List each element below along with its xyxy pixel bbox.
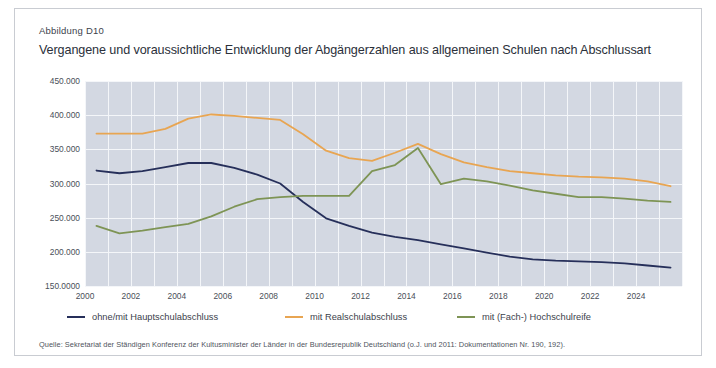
- x-axis-tick-label: 2008: [259, 291, 278, 301]
- legend-swatch-icon: [67, 316, 85, 318]
- series-lines: [85, 81, 682, 286]
- gridline-horizontal: [85, 286, 682, 287]
- x-axis-tick-label: 2022: [581, 291, 600, 301]
- y-axis-tick-label: 150.0000: [45, 281, 80, 291]
- figure-title: Vergangene und voraussichtliche Entwickl…: [39, 43, 651, 57]
- x-axis-tick-label: 2018: [489, 291, 508, 301]
- source-note: Quelle: Sekretariat der Ständigen Konfer…: [39, 340, 565, 349]
- legend-label: ohne/mit Hauptschulabschluss: [92, 312, 218, 322]
- x-axis-tick-label: 2012: [351, 291, 370, 301]
- y-axis-tick-label: 400.000: [50, 110, 80, 120]
- y-axis-tick-label: 300.000: [50, 179, 80, 189]
- chart-plot: 450.000400.000350.000300.000250.000200.0…: [85, 81, 682, 286]
- figure-label: Abbildung D10: [39, 25, 104, 36]
- x-axis-tick-label: 2006: [213, 291, 232, 301]
- x-axis-tick-label: 2002: [122, 291, 141, 301]
- legend-item[interactable]: ohne/mit Hauptschulabschluss: [67, 312, 218, 322]
- legend-item[interactable]: mit Realschulabschluss: [285, 312, 407, 322]
- x-axis-tick-label: 2004: [168, 291, 187, 301]
- series-line: [96, 163, 670, 268]
- x-axis-tick-label: 2014: [397, 291, 416, 301]
- series-line: [96, 148, 670, 233]
- gridline-vertical: [682, 81, 683, 286]
- legend-label: mit Realschulabschluss: [310, 312, 407, 322]
- y-axis-tick-label: 450.000: [50, 76, 80, 86]
- figure-panel: Abbildung D10 Vergangene und voraussicht…: [14, 8, 702, 356]
- x-axis-tick-label: 2016: [443, 291, 462, 301]
- series-line: [96, 114, 670, 186]
- y-axis-tick-label: 350.000: [50, 144, 80, 154]
- x-axis-tick-label: 2024: [627, 291, 646, 301]
- legend-item[interactable]: mit (Fach-) Hochschulreife: [457, 312, 591, 322]
- y-axis-tick-label: 250.000: [50, 213, 80, 223]
- x-axis-tick-label: 2000: [76, 291, 95, 301]
- x-axis-tick-label: 2020: [535, 291, 554, 301]
- legend-label: mit (Fach-) Hochschulreife: [482, 312, 591, 322]
- legend-swatch-icon: [285, 316, 303, 318]
- legend-swatch-icon: [457, 316, 475, 318]
- y-axis-tick-label: 200.000: [50, 247, 80, 257]
- chart-legend: ohne/mit Hauptschulabschlussmit Realschu…: [67, 312, 667, 328]
- x-axis-tick-label: 2010: [305, 291, 324, 301]
